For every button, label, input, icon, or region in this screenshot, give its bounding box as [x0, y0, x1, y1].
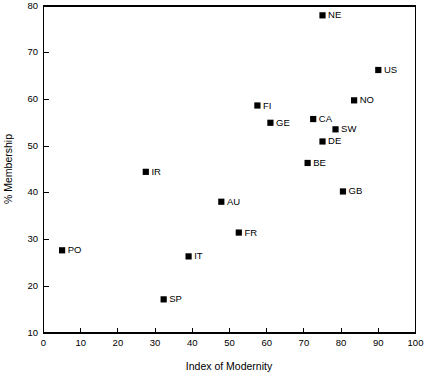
x-tick-label: 100 [408, 337, 424, 348]
point-marker [305, 160, 311, 166]
data-point: GB [340, 185, 362, 196]
point-label: NO [360, 94, 374, 105]
data-point: US [375, 64, 397, 75]
data-point: DE [319, 135, 341, 146]
data-point: BE [305, 157, 326, 168]
x-axis-title: Index of Modernity [186, 360, 273, 372]
point-label: PO [68, 244, 82, 255]
data-point: NE [319, 9, 341, 20]
y-tick-label: 60 [27, 93, 38, 104]
point-marker [310, 116, 316, 122]
point-marker [218, 199, 224, 205]
x-tick-label: 10 [75, 337, 86, 348]
data-point: SP [161, 293, 182, 304]
point-label: AU [227, 196, 240, 207]
point-label: IR [151, 166, 161, 177]
data-point: SW [332, 123, 356, 134]
y-tick-label: 30 [27, 233, 38, 244]
point-label: BE [313, 157, 326, 168]
plot-frame [44, 6, 416, 333]
y-axis-title: % Membership [2, 134, 14, 204]
data-point: CA [310, 113, 333, 124]
data-point: IR [143, 166, 161, 177]
point-marker [143, 169, 149, 175]
x-tick-label: 20 [113, 337, 124, 348]
point-marker [236, 229, 242, 235]
point-label: DE [328, 135, 341, 146]
point-label: SP [169, 293, 182, 304]
point-marker [161, 296, 167, 302]
data-points-group: NEUSNOFICAGESWDEBEIRGBAUFRPOITSP [59, 9, 397, 304]
data-point: AU [218, 196, 240, 207]
x-tick-label: 0 [41, 337, 46, 348]
data-point: FI [254, 100, 271, 111]
point-marker [59, 247, 65, 253]
x-tick-label: 50 [224, 337, 235, 348]
scatter-chart: 10203040506070800102030405060708090100 N… [0, 0, 426, 377]
ticks-group [44, 6, 416, 333]
x-tick-label: 30 [150, 337, 161, 348]
point-label: GB [349, 185, 363, 196]
point-marker [375, 67, 381, 73]
data-point: NO [351, 94, 374, 105]
x-tick-label: 70 [299, 337, 310, 348]
point-label: IT [194, 250, 203, 261]
point-marker [319, 12, 325, 18]
point-marker [319, 138, 325, 144]
axes-group [44, 6, 416, 333]
y-tick-label: 10 [27, 327, 38, 338]
data-point: FR [236, 227, 258, 238]
data-point: PO [59, 244, 81, 255]
point-label: NE [328, 9, 341, 20]
x-tick-label: 40 [187, 337, 198, 348]
x-tick-label: 90 [373, 337, 384, 348]
y-tick-label: 70 [27, 46, 38, 57]
point-marker [267, 120, 273, 126]
point-label: FR [244, 227, 257, 238]
point-label: US [384, 64, 397, 75]
plot-svg: 10203040506070800102030405060708090100 N… [0, 0, 426, 377]
y-tick-label: 50 [27, 140, 38, 151]
point-label: GE [276, 117, 290, 128]
point-marker [332, 126, 338, 132]
y-tick-label: 80 [27, 0, 38, 11]
point-label: SW [341, 123, 356, 134]
data-point: IT [185, 250, 202, 261]
point-marker [254, 102, 260, 108]
x-tick-label: 60 [261, 337, 272, 348]
point-marker [340, 188, 346, 194]
point-marker [351, 97, 357, 103]
point-label: FI [263, 100, 271, 111]
point-marker [185, 253, 191, 259]
x-tick-label: 80 [336, 337, 347, 348]
point-label: CA [319, 113, 333, 124]
tick-labels-group: 10203040506070800102030405060708090100 [27, 0, 423, 348]
data-point: GE [267, 117, 289, 128]
y-tick-label: 20 [27, 280, 38, 291]
y-tick-label: 40 [27, 186, 38, 197]
